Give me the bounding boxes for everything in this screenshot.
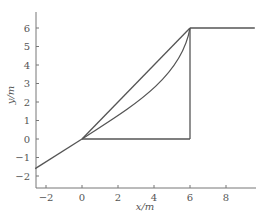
y-tick-label: 2 xyxy=(24,97,30,108)
x-tick-label: 2 xyxy=(115,192,121,203)
y-tick-label: −2 xyxy=(15,171,30,182)
y-tick-label: 5 xyxy=(24,41,30,52)
y-tick-label: −1 xyxy=(15,152,30,163)
y-tick-label: 3 xyxy=(24,78,30,89)
y-tick-label: 4 xyxy=(24,60,30,71)
x-tick-label: 6 xyxy=(187,192,193,203)
x-tick-label: 0 xyxy=(79,192,85,203)
axes: −2−10123456−202468x/my/m xyxy=(5,12,256,212)
y-axis-label: y/m xyxy=(5,86,16,106)
x-tick-label: −2 xyxy=(39,192,54,203)
series-group xyxy=(35,28,255,169)
y-tick-label: 1 xyxy=(24,115,30,126)
series-approach-line xyxy=(35,139,82,169)
x-axis-label: x/m xyxy=(136,201,155,212)
y-tick-label: 0 xyxy=(24,134,30,145)
y-tick-label: 6 xyxy=(24,23,30,34)
x-tick-label: 8 xyxy=(223,192,229,203)
series-straight-diagonal xyxy=(82,28,190,139)
chart: −2−10123456−202468x/my/m xyxy=(0,0,266,223)
